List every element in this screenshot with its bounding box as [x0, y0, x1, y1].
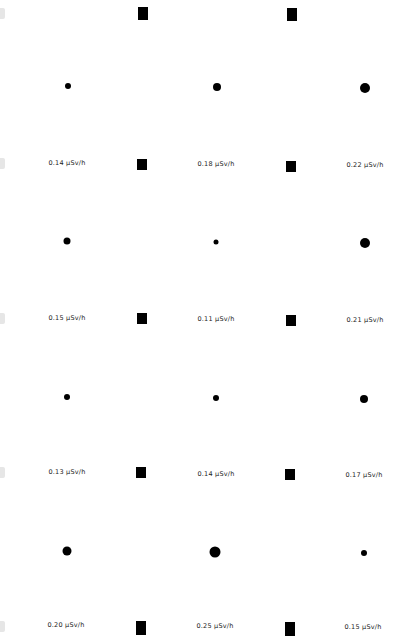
- dose-label: 0.14 µSv/h: [49, 159, 86, 167]
- dose-dot: [65, 83, 71, 89]
- separator-square: [136, 621, 146, 635]
- dose-label: 0.15 µSv/h: [345, 623, 382, 631]
- separator-square: [137, 313, 147, 324]
- dose-dot: [213, 395, 219, 401]
- dose-label: 0.21 µSv/h: [347, 316, 384, 324]
- separator-square: [285, 469, 295, 480]
- dose-dot: [64, 394, 70, 400]
- dose-dot: [361, 550, 367, 556]
- separator-square: [285, 622, 295, 636]
- dose-dot: [64, 238, 71, 245]
- separator-square: [286, 315, 296, 326]
- dose-dot: [214, 240, 219, 245]
- dose-label: 0.11 µSv/h: [198, 315, 235, 323]
- dose-label: 0.15 µSv/h: [49, 314, 86, 322]
- dose-label: 0.25 µSv/h: [197, 622, 234, 630]
- separator-square: [287, 8, 297, 21]
- separator-square: [136, 467, 146, 478]
- edge-marker: [0, 621, 5, 632]
- separator-square: [138, 7, 148, 20]
- dose-label: 0.14 µSv/h: [198, 470, 235, 478]
- edge-marker: [0, 467, 5, 478]
- separator-square: [137, 159, 147, 170]
- dose-dot: [360, 395, 368, 403]
- dose-dot: [210, 547, 221, 558]
- dose-label: 0.13 µSv/h: [49, 468, 86, 476]
- edge-marker: [0, 8, 5, 19]
- edge-marker: [0, 158, 5, 169]
- dose-label: 0.17 µSv/h: [346, 471, 383, 479]
- dose-dot: [360, 238, 370, 248]
- dose-dot: [63, 547, 72, 556]
- separator-square: [286, 161, 296, 172]
- dose-dot: [360, 83, 370, 93]
- edge-marker: [0, 313, 5, 324]
- dose-dot: [213, 83, 221, 91]
- dose-label: 0.22 µSv/h: [347, 161, 384, 169]
- dose-label: 0.20 µSv/h: [48, 621, 85, 629]
- dose-label: 0.18 µSv/h: [198, 160, 235, 168]
